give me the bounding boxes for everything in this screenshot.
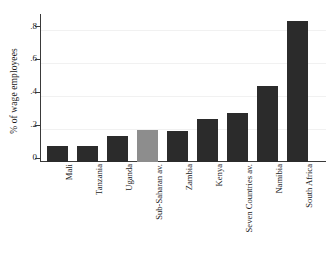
bar-kenya[interactable] <box>197 119 218 162</box>
bar-uganda[interactable] <box>107 136 128 162</box>
x-tick-label-namibia: Namibia <box>272 164 286 256</box>
bar-namibia[interactable] <box>257 86 278 162</box>
bar-seven-countries-av[interactable] <box>227 113 248 162</box>
bar-series <box>41 14 326 162</box>
bar-zambia[interactable] <box>167 131 188 162</box>
bar-tanzania[interactable] <box>77 146 98 162</box>
x-tick-label-tanzania: Tanzania <box>92 164 106 256</box>
x-tick-label-mali: Mali <box>62 164 76 256</box>
x-axis-tick-labels: Mali Tanzania Uganda Sub-Saharan av. Zam… <box>41 164 326 260</box>
x-tick-label-south-africa: South Africa <box>302 164 316 256</box>
bar-mali[interactable] <box>47 146 68 162</box>
bar-chart: % of wage employees .8 .6 .4 .2 0 Mali T… <box>0 0 330 260</box>
x-tick-label-uganda: Uganda <box>122 164 136 256</box>
x-tick-label-zambia: Zambia <box>182 164 196 256</box>
x-tick-label-kenya: Kenya <box>212 164 226 256</box>
x-tick-label-seven-countries-av: Seven Countries av. <box>242 164 256 256</box>
y-axis-tick-labels: .8 .6 .4 .2 0 <box>22 0 37 260</box>
x-tick-label-sub-saharan-av: Sub-Saharan av. <box>152 164 166 256</box>
y-axis-title: % of wage employees <box>6 10 22 172</box>
bar-sub-saharan-av[interactable] <box>137 130 158 162</box>
bar-south-africa[interactable] <box>287 21 308 162</box>
